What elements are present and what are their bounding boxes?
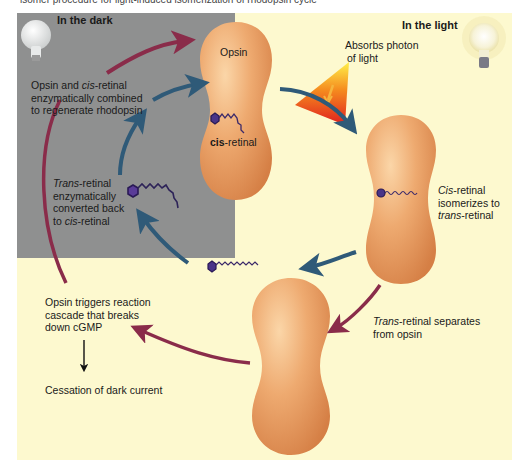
combine-line-3: to regenerate rhodopsin <box>31 104 143 117</box>
convert-text-suffix: -retinal <box>78 215 110 227</box>
cascade-line-2: cascade that breaks <box>45 309 151 322</box>
cis-retinal-label: cis-retinal <box>210 136 257 149</box>
convert-label: Trans-retinal enzymatically converted ba… <box>53 177 124 227</box>
combine-text-italic: cis <box>82 79 95 91</box>
combine-text-b: -retinal <box>95 79 127 91</box>
separation-label: Trans-retinal separates from opsin <box>373 315 480 340</box>
cascade-arrow <box>140 330 250 363</box>
combine-text-a: Opsin and <box>31 79 82 91</box>
absorbs-line-1: Absorbs photon <box>345 39 419 52</box>
sep-text-italic: Trans <box>373 315 399 327</box>
opsin-isomerized <box>366 115 436 284</box>
released-to-dark-arrow <box>143 218 188 263</box>
cascade-line-1: Opsin triggers reaction <box>45 296 151 309</box>
convert-text-b: -retinal <box>79 177 111 189</box>
cessation-label: Cessation of dark current <box>45 384 162 397</box>
cis-retinal-prefix: cis <box>210 136 225 148</box>
opsin-label: Opsin <box>220 46 247 59</box>
isom-text-b: -retinal <box>453 184 485 196</box>
lit-bulb-icon <box>462 16 506 68</box>
combine-arrow <box>153 84 198 100</box>
isom-line-2: isomerizes to <box>438 197 500 210</box>
cascade-line-3: down cGMP <box>45 321 151 334</box>
sep-line-2: from opsin <box>373 328 480 341</box>
absorbs-line-2: of light <box>345 52 419 65</box>
regenerate-arrow <box>107 41 184 73</box>
rhodopsin-cycle-diagram <box>0 0 524 476</box>
convert-line-2: enzymatically <box>53 190 124 203</box>
convert-to-combine-arrow <box>120 118 140 175</box>
convert-line-3: converted back <box>53 202 124 215</box>
light-panel-title: In the light <box>402 19 458 32</box>
release-retinal-arrow <box>310 252 356 267</box>
convert-text-italic: Trans <box>53 177 79 189</box>
convert-text-to: to <box>53 215 65 227</box>
trans-retinal-released-molecule <box>208 261 258 272</box>
absorbs-photon-label: Absorbs photon of light <box>345 39 419 64</box>
combine-line-2: enzymatically combined <box>31 92 143 105</box>
sep-text-b: -retinal separates <box>399 315 480 327</box>
dark-panel-title: In the dark <box>57 14 113 27</box>
isom-text-trans: trans <box>438 209 461 221</box>
convert-text-cis: cis <box>65 215 78 227</box>
isom-text-italic: Cis <box>438 184 453 196</box>
cascade-label: Opsin triggers reaction cascade that bre… <box>45 296 151 334</box>
combine-label: Opsin and cis-retinal enzymatically comb… <box>31 79 143 117</box>
trans-retinal-dark-molecule <box>128 184 178 208</box>
cis-retinal-suffix: -retinal <box>225 136 257 148</box>
opsin-free <box>252 278 330 455</box>
isom-text-suffix: -retinal <box>461 209 493 221</box>
unlit-bulb-icon <box>21 20 51 61</box>
isomerize-label: Cis-retinal isomerizes to trans-retinal <box>438 184 500 222</box>
